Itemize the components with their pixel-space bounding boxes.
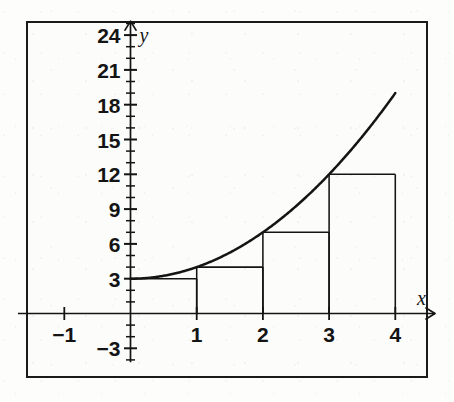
- riemann-rectangle: [263, 232, 329, 313]
- y-tick-label: 18: [97, 94, 120, 115]
- x-axis-label: x: [417, 288, 426, 308]
- y-tick-label: −3: [97, 338, 121, 359]
- riemann-rectangle: [197, 267, 263, 313]
- x-tick-label: 1: [191, 324, 203, 345]
- riemann-rectangle: [131, 279, 197, 314]
- y-tick-label: 21: [97, 59, 120, 80]
- y-tick-label: 15: [97, 129, 120, 150]
- figure-canvas: −33691215182124−11234 x y: [0, 0, 454, 402]
- y-tick-label: 12: [97, 164, 120, 185]
- axes-group: [18, 21, 435, 362]
- x-tick-label: 4: [389, 324, 401, 345]
- x-tick-label: 2: [257, 324, 269, 345]
- y-axis-label: y: [140, 25, 149, 45]
- y-tick-label: 6: [109, 233, 121, 254]
- riemann-rectangles-group: [131, 174, 396, 313]
- x-tick-label: 3: [323, 324, 335, 345]
- y-tick-label: 3: [109, 268, 121, 289]
- y-tick-label: 9: [109, 199, 121, 220]
- y-tick-label: 24: [97, 25, 120, 46]
- riemann-rectangle: [329, 174, 395, 313]
- x-tick-label: −1: [52, 324, 76, 345]
